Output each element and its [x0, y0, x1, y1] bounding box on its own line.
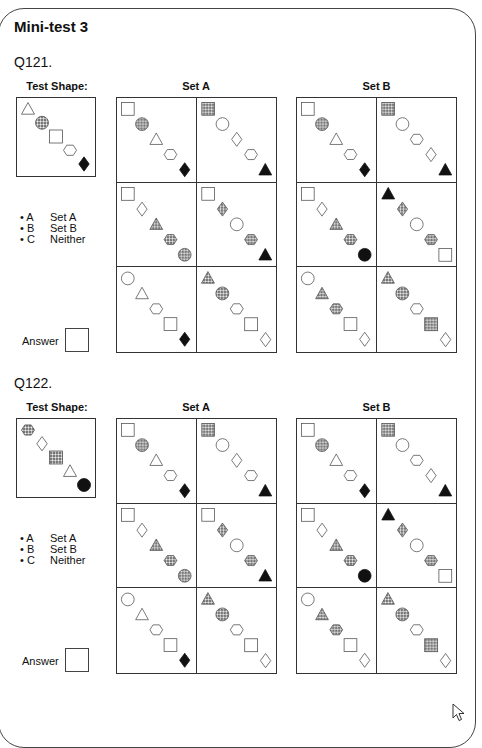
square-dotted-icon: [381, 102, 394, 115]
square-outline-icon: [164, 639, 177, 652]
diamond-outline-icon: [260, 333, 270, 347]
hexagon-outline-icon: [344, 471, 357, 481]
square-outline-icon: [438, 248, 451, 261]
answer-label: Answer: [22, 655, 59, 667]
square-outline-icon: [121, 508, 134, 521]
square-outline-icon: [121, 187, 134, 200]
hexagon-dotted-icon: [344, 234, 357, 244]
diamond-outline-icon: [425, 148, 435, 162]
hexagon-dotted-icon: [244, 555, 257, 565]
hexagon-outline-icon: [244, 150, 257, 160]
circle-outline-icon: [216, 439, 229, 452]
hexagon-outline-icon: [230, 304, 243, 314]
test-shape-box: [16, 97, 96, 177]
hexagon-dotted-icon: [330, 625, 343, 635]
question-number-q122: Q122.: [14, 375, 52, 391]
shape-cell: [377, 183, 457, 268]
triangle-outline-icon: [136, 609, 149, 620]
circle-dotted-icon: [178, 569, 191, 582]
square-outline-icon: [50, 130, 63, 143]
triangle-outline-icon: [330, 133, 343, 144]
square-outline-icon: [244, 639, 257, 652]
answer-input-q122[interactable]: [65, 648, 89, 672]
test-shape-header: Test Shape:: [14, 401, 100, 413]
option-c[interactable]: • CNeither: [20, 234, 85, 245]
hexagon-dotted-icon: [424, 234, 437, 244]
set-b-grid: [296, 97, 457, 353]
square-outline-icon: [301, 424, 314, 437]
option-key: • C: [20, 555, 50, 566]
set-a-header: Set A: [116, 401, 276, 413]
diamond-outline-icon: [260, 654, 270, 668]
square-outline-icon: [201, 187, 214, 200]
triangle-black-icon: [258, 484, 271, 496]
square-dotted-icon: [201, 423, 214, 436]
answer-input-q121[interactable]: [65, 328, 89, 352]
diamond-black-icon: [360, 484, 370, 498]
shape-cell: [117, 588, 197, 673]
hexagon-outline-icon: [164, 471, 177, 481]
diamond-black-icon: [79, 157, 89, 171]
diamond-outline-icon: [137, 202, 147, 216]
diamond-outline-icon: [317, 523, 327, 537]
triangle-outline-icon: [22, 103, 35, 115]
square-outline-icon: [438, 569, 451, 582]
circle-outline-icon: [121, 593, 134, 606]
hexagon-dotted-icon: [164, 555, 177, 565]
triangle-black-icon: [381, 508, 394, 520]
shape-cell: [117, 98, 197, 183]
square-outline-icon: [121, 424, 134, 437]
triangle-black-icon: [258, 248, 271, 260]
circle-dotted-icon: [215, 287, 228, 300]
hexagon-dotted-icon: [344, 555, 357, 565]
square-dotted-icon: [424, 639, 437, 652]
triangle-dotted-icon: [201, 593, 214, 605]
shape-cell: [197, 504, 277, 589]
diamond-dotted-icon: [397, 523, 407, 537]
option-c[interactable]: • CNeither: [20, 555, 85, 566]
shape-cell: [297, 98, 377, 183]
circle-outline-icon: [396, 118, 409, 131]
hexagon-outline-icon: [344, 150, 357, 160]
set-b-header: Set B: [296, 80, 457, 92]
hexagon-outline-icon: [164, 150, 177, 160]
triangle-dotted-icon: [330, 539, 343, 550]
circle-dotted-icon: [316, 439, 329, 452]
square-outline-icon: [201, 508, 214, 521]
triangle-black-icon: [438, 484, 451, 496]
shape-cell: [377, 588, 457, 673]
mouse-cursor-icon: [452, 703, 466, 723]
diamond-outline-icon: [425, 469, 435, 483]
square-outline-icon: [344, 318, 357, 331]
diamond-black-icon: [180, 654, 190, 668]
triangle-dotted-icon: [150, 218, 163, 229]
shape-cell: [377, 419, 457, 504]
diamond-outline-icon: [317, 202, 327, 216]
triangle-outline-icon: [150, 454, 163, 465]
hexagon-outline-icon: [410, 134, 423, 144]
page-title: Mini-test 3: [14, 18, 88, 35]
triangle-dotted-icon: [316, 288, 329, 299]
circle-dotted-icon: [395, 608, 408, 621]
hexagon-outline-icon: [244, 471, 257, 481]
diamond-outline-icon: [360, 333, 370, 347]
circle-outline-icon: [216, 118, 229, 131]
shape-cell: [297, 267, 377, 352]
shape-cell: [297, 183, 377, 268]
diamond-dotted-icon: [217, 523, 227, 537]
triangle-outline-icon: [64, 465, 77, 477]
circle-dotted-icon: [136, 439, 149, 452]
square-outline-icon: [244, 318, 257, 331]
circle-dotted-icon: [215, 608, 228, 621]
triangle-outline-icon: [136, 288, 149, 299]
circle-outline-icon: [301, 593, 314, 606]
square-outline-icon: [121, 103, 134, 116]
triangle-dotted-icon: [381, 593, 394, 605]
square-dotted-icon: [201, 102, 214, 115]
hexagon-dotted-icon: [330, 304, 343, 314]
hexagon-dotted-icon: [244, 234, 257, 244]
shape-cell: [297, 419, 377, 504]
circle-dotted-icon: [316, 118, 329, 131]
shape-cell: [197, 183, 277, 268]
circle-dotted-icon: [395, 287, 408, 300]
